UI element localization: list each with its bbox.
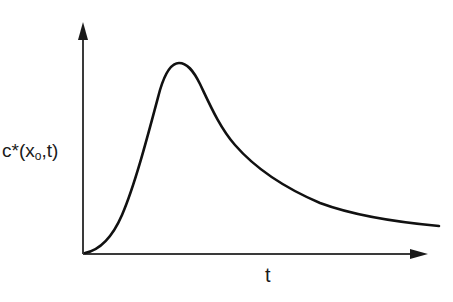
chart-canvas [0,0,453,302]
y-label-prefix: c*(x [2,140,35,161]
y-axis-label: c*(xo,t) [2,140,58,163]
y-axis-arrow-icon [78,22,88,40]
x-axis [83,249,428,259]
concentration-curve [85,63,439,253]
x-axis-arrow-icon [410,249,428,259]
y-label-suffix: ,t) [41,140,58,161]
y-axis [78,22,88,254]
x-axis-label: t [265,264,271,287]
